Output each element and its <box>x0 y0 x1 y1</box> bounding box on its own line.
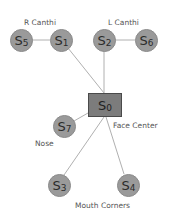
node-s1-sub: 1 <box>63 39 69 48</box>
node-s0-letter: S <box>98 99 106 112</box>
facial-landmark-diagram: R Canthi L Canthi Face Center Nose Mouth… <box>0 0 171 219</box>
node-s4-sub: 4 <box>130 184 136 193</box>
node-s7-letter: S <box>58 120 66 133</box>
node-s4: S4 <box>117 174 140 197</box>
node-s6: S6 <box>135 29 158 52</box>
node-s2-letter: S <box>98 34 106 47</box>
node-s1-letter: S <box>55 34 63 47</box>
node-s3-sub: 3 <box>61 184 67 193</box>
node-s5: S5 <box>10 29 33 52</box>
label-r-canthi: R Canthi <box>24 19 56 27</box>
node-s6-sub: 6 <box>148 39 154 48</box>
node-s3-letter: S <box>53 179 61 192</box>
edge-s7-s0 <box>74 113 88 121</box>
edge-s1-s0 <box>68 48 104 93</box>
node-s5-sub: 5 <box>23 39 29 48</box>
label-face-center: Face Center <box>113 122 158 130</box>
node-s7: S7 <box>53 115 76 138</box>
node-s1: S1 <box>50 29 73 52</box>
node-s5-letter: S <box>15 34 23 47</box>
label-mouth-corners: Mouth Corners <box>75 202 130 210</box>
node-s0-sub: 0 <box>106 104 112 113</box>
node-s7-sub: 7 <box>66 125 72 134</box>
node-s2: S2 <box>93 29 116 52</box>
node-s4-letter: S <box>122 179 130 192</box>
label-nose: Nose <box>35 140 54 148</box>
node-s2-sub: 2 <box>106 39 112 48</box>
label-l-canthi: L Canthi <box>108 19 139 27</box>
node-s6-letter: S <box>140 34 148 47</box>
node-s0-face-center: S0 <box>88 93 122 117</box>
node-s3: S3 <box>48 174 71 197</box>
